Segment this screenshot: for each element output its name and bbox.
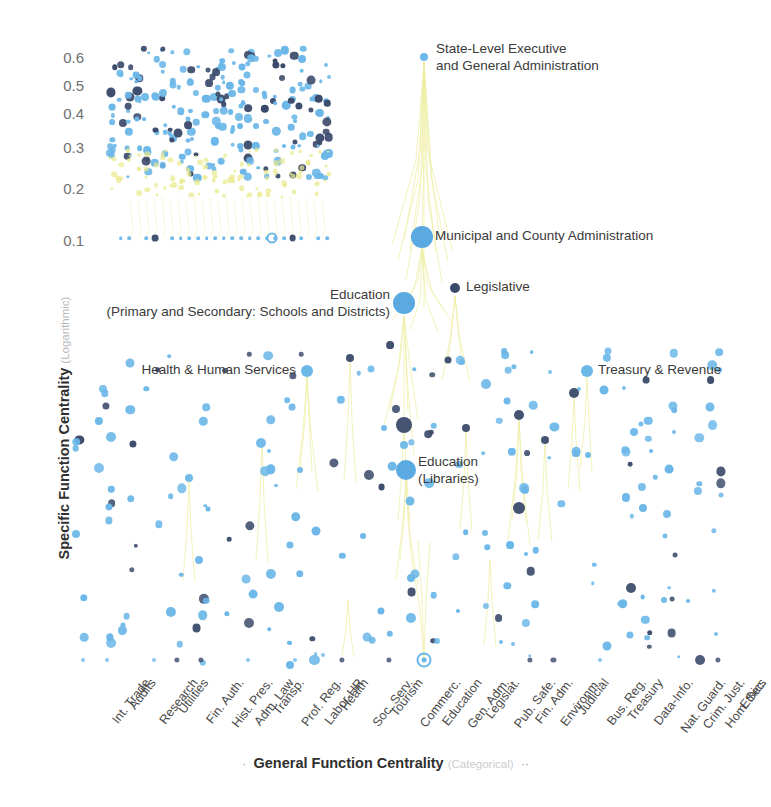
annotation-marker[interactable] — [411, 226, 433, 248]
annotation-label-line2: and General Administration — [436, 58, 599, 75]
annotation-label: Health & Human Services — [141, 362, 296, 379]
y-axis-title-text: Specific Function Centrality — [56, 368, 72, 560]
annotation-label-line1: Legislative — [466, 279, 530, 296]
annotation-label-line1: Education — [418, 454, 479, 471]
annotation-marker[interactable] — [396, 460, 416, 480]
annotation-label: State-Level Executiveand General Adminis… — [436, 41, 599, 75]
y-axis-title: Specific Function Centrality (Logarithmi… — [56, 278, 72, 578]
axis-arrow-left-icon: · — [242, 757, 249, 771]
annotation-label-line1: Treasury & Revenue — [598, 362, 721, 379]
annotation-marker[interactable] — [420, 53, 428, 61]
x-axis-title-sub: (Categorical) — [448, 758, 514, 770]
annotation-label: Legislative — [466, 279, 530, 296]
axis-arrow-right-icon: ·· — [518, 757, 529, 771]
annotation-label-line2: (Primary and Secondary: Schools and Dist… — [106, 304, 390, 321]
annotation-marker[interactable] — [450, 283, 460, 293]
annotation-label: Education(Primary and Secondary: Schools… — [106, 287, 390, 321]
x-axis-title-text: General Function Centrality — [254, 755, 444, 771]
annotation-label-line1: State-Level Executive — [436, 41, 599, 58]
annotation-label-line1: Education — [106, 287, 390, 304]
annotation-label: Treasury & Revenue — [598, 362, 721, 379]
annotation-label: Municipal and County Administration — [435, 228, 653, 245]
x-axis-ticks: Int. TradeAuditsResearchUtilitiesFin. Au… — [0, 0, 771, 807]
x-axis-title: · General Function Centrality (Categoric… — [0, 755, 771, 771]
y-axis-title-sub: (Logarithmic) — [59, 297, 71, 364]
annotation-marker[interactable] — [301, 365, 313, 377]
annotation-label-line2: (Libraries) — [418, 471, 479, 488]
chart-canvas: 0.60.50.40.30.20.1 Int. TradeAuditsResea… — [0, 0, 771, 807]
annotation-label: Education(Libraries) — [418, 454, 479, 488]
annotation-label-line1: Health & Human Services — [141, 362, 296, 379]
annotation-marker[interactable] — [581, 365, 593, 377]
annotation-marker[interactable] — [393, 292, 415, 314]
annotation-label-line1: Municipal and County Administration — [435, 228, 653, 245]
